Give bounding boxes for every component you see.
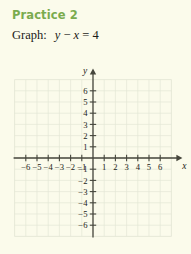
y-tick-label: −6 bbox=[78, 220, 88, 230]
equation: y − x = 4 bbox=[55, 28, 99, 42]
y-tick-label: −1 bbox=[78, 164, 87, 174]
y-tick-label: 6 bbox=[83, 86, 88, 96]
equation-lhs-variable: y bbox=[55, 28, 61, 42]
x-axis-label: x bbox=[181, 161, 187, 171]
x-tick-label: 3 bbox=[124, 162, 128, 172]
x-tick-label: 1 bbox=[102, 162, 106, 172]
practice-problem-page: Practice 2 Graph:y − x = 4 −6−5−4−3−2−11… bbox=[0, 0, 191, 254]
x-tick-label: 4 bbox=[136, 162, 141, 172]
y-tick-label: 5 bbox=[83, 97, 87, 107]
x-tick-label: −2 bbox=[66, 162, 75, 172]
y-tick-label: 2 bbox=[83, 131, 87, 141]
x-tick-label: −5 bbox=[32, 162, 41, 172]
x-tick-label: −3 bbox=[55, 162, 64, 172]
x-tick-label: 2 bbox=[113, 162, 117, 172]
y-tick-label: −5 bbox=[78, 209, 87, 219]
coordinate-plane[interactable]: −6−5−4−3−2−1123456654321−1−2−3−4−5−6 xy bbox=[0, 50, 191, 254]
prompt-label: Graph: bbox=[12, 28, 47, 42]
y-axis-label: y bbox=[82, 66, 88, 76]
equation-rhs-variable: x bbox=[74, 28, 80, 42]
equation-operator: − bbox=[63, 28, 70, 42]
page-title: Practice 2 bbox=[12, 8, 78, 22]
y-tick-label: −4 bbox=[78, 198, 88, 208]
y-tick-label: 4 bbox=[83, 108, 88, 118]
y-tick-label: 3 bbox=[83, 120, 87, 130]
y-tick-label: 1 bbox=[83, 142, 87, 152]
coordinate-grid-svg: −6−5−4−3−2−1123456654321−1−2−3−4−5−6 xy bbox=[0, 50, 191, 254]
x-tick-label: −6 bbox=[21, 162, 31, 172]
x-tick-label: 6 bbox=[158, 162, 163, 172]
y-tick-label: −3 bbox=[78, 187, 87, 197]
axis-lines bbox=[14, 69, 183, 238]
x-tick-label: −4 bbox=[44, 162, 54, 172]
graph-prompt: Graph:y − x = 4 bbox=[12, 28, 99, 43]
y-tick-label: −2 bbox=[78, 176, 87, 186]
equation-equals-sign: = bbox=[82, 28, 89, 42]
equation-value: 4 bbox=[92, 28, 98, 42]
x-tick-label: 5 bbox=[147, 162, 151, 172]
